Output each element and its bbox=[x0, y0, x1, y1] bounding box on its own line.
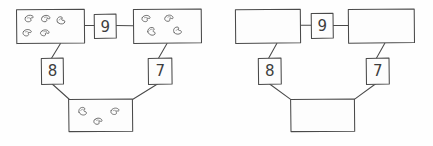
diagram-canvas: 9 8 7 bbox=[0, 0, 433, 146]
top-left-container-empty bbox=[235, 9, 300, 43]
connector-label-8[interactable]: 8 bbox=[41, 58, 63, 84]
edge-label8-bottom bbox=[270, 84, 291, 100]
edge-label7-bottom bbox=[133, 84, 158, 100]
label-8-text: 8 bbox=[265, 62, 275, 80]
bottom-container-empty bbox=[291, 99, 355, 132]
edge-topright-label7 bbox=[376, 43, 384, 58]
label-9-text: 9 bbox=[101, 18, 111, 36]
left-panel: 9 8 7 bbox=[17, 9, 202, 132]
label-7-text: 7 bbox=[373, 62, 383, 80]
top-right-container bbox=[133, 9, 201, 43]
connector-label-9[interactable]: 9 bbox=[94, 14, 116, 38]
edge-label7-bottom bbox=[354, 84, 375, 100]
edge-topright-label7 bbox=[159, 44, 168, 59]
bottom-container bbox=[69, 99, 133, 132]
connector-label-8[interactable]: 8 bbox=[258, 58, 281, 84]
bean-shape bbox=[79, 107, 87, 115]
connector-label-7[interactable]: 7 bbox=[148, 58, 172, 84]
label-7-text: 7 bbox=[155, 62, 165, 80]
edge-label8-bottom bbox=[52, 84, 69, 100]
connector-label-7[interactable]: 7 bbox=[366, 58, 389, 84]
top-right-container-empty bbox=[348, 9, 414, 43]
label-9-text: 9 bbox=[318, 17, 328, 35]
edge-topleft-label8 bbox=[52, 44, 61, 59]
top-left-container bbox=[17, 9, 85, 43]
diagram-figure: 9 8 7 bbox=[0, 0, 433, 146]
label-8-text: 8 bbox=[48, 62, 58, 80]
edge-topleft-label8 bbox=[269, 43, 277, 58]
connector-label-9[interactable]: 9 bbox=[311, 13, 333, 38]
right-panel: 9 8 7 bbox=[235, 9, 414, 132]
